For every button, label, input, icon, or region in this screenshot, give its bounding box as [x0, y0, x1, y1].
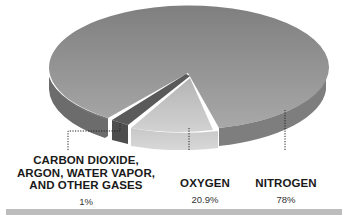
label-oxygen-value: 20.9%	[170, 194, 240, 205]
label-co2-value: 1%	[6, 196, 166, 207]
label-nitrogen-value: 78%	[244, 194, 328, 205]
label-oxygen-name: OXYGEN	[170, 177, 240, 190]
label-nitrogen-name: NITROGEN	[244, 177, 328, 190]
label-co2-line1: CARBON DIOXIDE,	[6, 154, 166, 167]
label-co2-line3: AND OTHER GASES	[6, 179, 166, 192]
bottom-divider-bar	[6, 209, 342, 215]
label-co2-line2: ARGON, WATER VAPOR,	[6, 167, 166, 180]
label-oxygen: OXYGEN 20.9%	[170, 177, 240, 205]
label-nitrogen: NITROGEN 78%	[244, 177, 328, 205]
pie-chart	[0, 0, 342, 150]
label-co2: CARBON DIOXIDE, ARGON, WATER VAPOR, AND …	[6, 154, 166, 207]
